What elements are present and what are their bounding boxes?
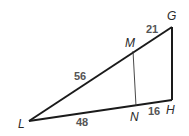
vertex-label-L: L bbox=[18, 117, 25, 131]
segment-MN bbox=[133, 51, 136, 106]
vertex-label-G: G bbox=[167, 9, 176, 23]
length-label-LN: 48 bbox=[76, 116, 88, 128]
vertex-label-M: M bbox=[125, 36, 135, 50]
length-label-MG: 21 bbox=[146, 23, 158, 35]
length-label-LM: 56 bbox=[74, 70, 86, 82]
triangle-diagram: G M L N H 21 56 48 16 bbox=[0, 0, 189, 136]
length-label-NH: 16 bbox=[148, 105, 160, 117]
vertex-label-H: H bbox=[166, 103, 175, 117]
vertex-label-N: N bbox=[130, 110, 139, 124]
